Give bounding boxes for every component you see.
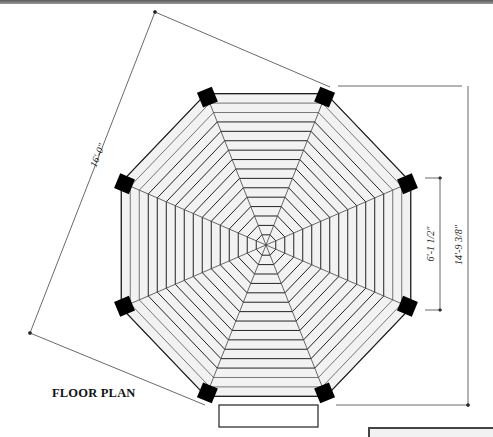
entry-step <box>219 405 318 427</box>
side-dimension-label: 6'-1 1/2" <box>425 226 436 262</box>
title-block-corner <box>368 427 493 437</box>
diagonal-dimension-label: 16'-0" <box>88 141 108 169</box>
deck-boards <box>121 94 410 397</box>
drawing-title: FLOOR PLAN <box>52 386 136 401</box>
height-dimension-label: 14'-9 3/8" <box>453 224 464 265</box>
